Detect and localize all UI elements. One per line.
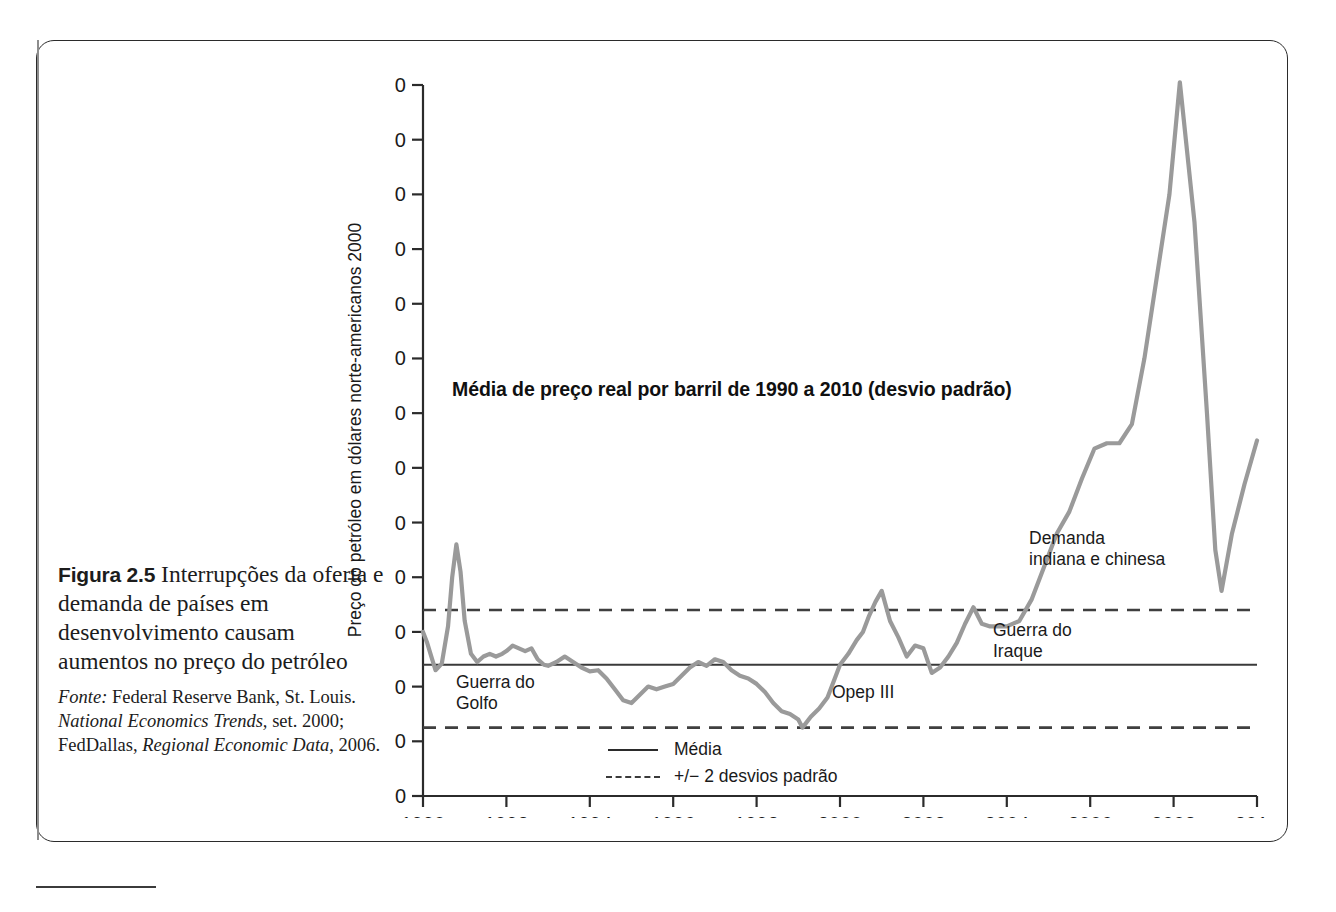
- annotation-demand-line2: indiana e chinesa: [1029, 549, 1165, 570]
- y-tick-label: 40: [395, 566, 406, 588]
- x-tick-label: 2010: [1235, 813, 1265, 818]
- y-tick-label: 130: [395, 74, 406, 96]
- footnote-rule: [36, 886, 156, 888]
- y-tick-label: 20: [395, 676, 406, 698]
- x-tick-label: 2002: [901, 813, 946, 818]
- y-tick-label: 50: [395, 512, 406, 534]
- figure-caption-block: Figura 2.5 Interrupções da oferta e dema…: [58, 560, 388, 757]
- x-tick-label: 1994: [568, 813, 613, 818]
- figure-page: Figura 2.5 Interrupções da oferta e dema…: [0, 0, 1336, 912]
- x-tick-label: 1996: [651, 813, 696, 818]
- figure-source: Fonte: Federal Reserve Bank, St. Louis. …: [58, 685, 388, 757]
- x-tick-label: 1990: [401, 813, 446, 818]
- source-line2b: National Economics Trends,: [58, 711, 268, 731]
- annotation-gulf-war-line1: Guerra do: [456, 672, 535, 693]
- x-tick-label: 2008: [1151, 813, 1196, 818]
- source-prefix: Fonte:: [58, 687, 107, 707]
- annotation-iraq-war-line2: Iraque: [993, 641, 1072, 662]
- source-line2a: Louis.: [309, 687, 356, 707]
- y-tick-label: 120: [395, 129, 406, 151]
- annotation-iraq-war-line1: Guerra do: [993, 620, 1072, 641]
- source-line1: Federal Reserve Bank, St.: [112, 687, 305, 707]
- y-tick-label: 30: [395, 621, 406, 643]
- annotation-iraq-war: Guerra do Iraque: [993, 620, 1072, 662]
- legend-item-stddev: +/− 2 desvios padrão: [604, 763, 837, 790]
- legend-label-stddev: +/− 2 desvios padrão: [674, 766, 837, 787]
- series-line: [423, 82, 1257, 727]
- y-tick-label: 80: [395, 347, 406, 369]
- x-tick-label: 2006: [1068, 813, 1113, 818]
- x-tick-label: 2000: [818, 813, 863, 818]
- source-line4b: , 2006.: [329, 735, 380, 755]
- legend-label-mean: Média: [674, 739, 722, 760]
- y-tick-label: 0: [395, 785, 406, 807]
- legend-swatch-dashed-line: [604, 770, 662, 784]
- source-line4a: Economic Data: [214, 735, 330, 755]
- caption-divider: [37, 40, 39, 840]
- x-tick-label: 2004: [985, 813, 1030, 818]
- figure-number: Figura 2.5: [58, 563, 155, 586]
- source-line3b: Regional: [142, 735, 209, 755]
- legend-swatch-solid-line: [604, 743, 662, 757]
- x-tick-label: 1998: [734, 813, 779, 818]
- y-tick-label: 100: [395, 238, 406, 260]
- figure-caption: Figura 2.5 Interrupções da oferta e dema…: [58, 560, 388, 676]
- y-tick-label: 70: [395, 402, 406, 424]
- y-tick-label: 60: [395, 457, 406, 479]
- legend-item-mean: Média: [604, 736, 837, 763]
- y-tick-label: 10: [395, 730, 406, 752]
- y-axis-label: Preço do petróleo em dólares norte-ameri…: [345, 223, 366, 637]
- y-tick-label: 110: [395, 183, 406, 205]
- annotation-gulf-war-line2: Golfo: [456, 693, 535, 714]
- annotation-opec3: Opep III: [832, 682, 894, 703]
- x-tick-label: 1992: [484, 813, 529, 818]
- chart-legend: Média +/− 2 desvios padrão: [604, 736, 837, 790]
- annotation-gulf-war: Guerra do Golfo: [456, 672, 535, 714]
- annotation-demand-line1: Demanda: [1029, 528, 1165, 549]
- annotation-demand: Demanda indiana e chinesa: [1029, 528, 1165, 570]
- y-tick-label: 90: [395, 293, 406, 315]
